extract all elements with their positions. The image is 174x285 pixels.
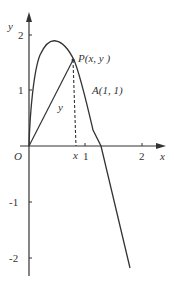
x-axis-label: x bbox=[159, 150, 165, 162]
segment-y-label: y bbox=[57, 101, 63, 113]
origin-label: O bbox=[14, 150, 22, 162]
dashed-perpendicular bbox=[73, 60, 76, 146]
function-curve bbox=[29, 41, 130, 268]
y-axis-label: y bbox=[7, 20, 13, 32]
y-tick-label-1: 1 bbox=[18, 84, 24, 96]
foot-x-label: x bbox=[72, 149, 78, 161]
point-a-label: A(1, 1) bbox=[91, 84, 123, 97]
y-tick-label-neg1: -1 bbox=[9, 196, 18, 208]
x-tick-label-2: 2 bbox=[139, 150, 145, 162]
y-tick-label-neg2: -2 bbox=[9, 252, 18, 264]
y-axis-arrow-icon bbox=[26, 12, 32, 22]
function-graph: y x O 1 2 2 1 -1 -2 P(x, y ) A(1, 1) y x bbox=[0, 0, 174, 285]
y-tick-label-2: 2 bbox=[18, 29, 24, 41]
point-p-marker bbox=[72, 59, 75, 62]
x-axis-arrow-icon bbox=[156, 143, 166, 149]
x-tick-label-1: 1 bbox=[83, 150, 89, 162]
point-p-label: P(x, y ) bbox=[77, 52, 110, 65]
